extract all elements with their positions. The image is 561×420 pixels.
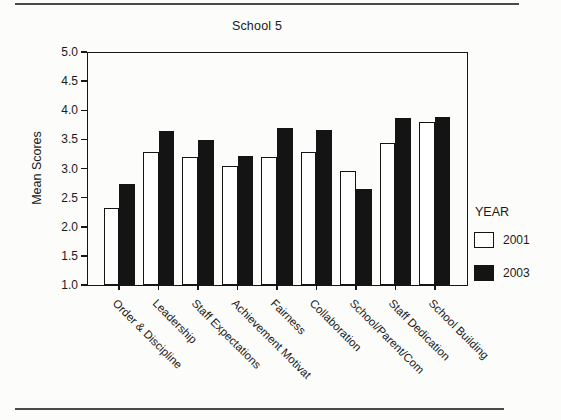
y-tick-label-4.5: 4.5	[51, 74, 78, 88]
legend-label-2003: 2003	[503, 266, 530, 280]
bar-2001-School/Parent/Com	[340, 171, 356, 285]
bar-2003-School Building	[435, 117, 451, 285]
top-rule	[15, 3, 519, 5]
x-tick-School Building	[434, 285, 436, 290]
bar-2001-Staff Dedication	[380, 143, 396, 285]
y-tick-label-3.0: 3.0	[51, 162, 78, 176]
y-tick-label-2.0: 2.0	[51, 220, 78, 234]
legend-item-2003: 2003	[474, 265, 530, 281]
legend-item-2001: 2001	[474, 232, 530, 248]
bar-2001-School Building	[419, 122, 435, 285]
y-axis-label: Mean Scores	[30, 131, 44, 205]
chart-title: School 5	[77, 19, 437, 33]
legend-swatch-2003	[474, 265, 494, 281]
y-tick-1.0	[81, 284, 87, 286]
y-tick-4.5	[81, 80, 87, 82]
legend-title: YEAR	[475, 205, 530, 219]
legend: YEAR 20012003	[474, 205, 530, 298]
x-tick-Fairness	[276, 285, 278, 290]
bar-2001-Staff Expectations	[182, 157, 198, 285]
x-label-Achievement Motivat: Achievement Motivat	[229, 297, 313, 381]
y-tick-4.0	[81, 110, 87, 112]
legend-items: 20012003	[474, 232, 530, 281]
y-tick-3.0	[81, 168, 87, 170]
figure-page: School 5 Mean Scores 5.04.54.03.53.02.52…	[0, 0, 561, 420]
x-label-Order & Discipline: Order & Discipline	[111, 297, 185, 371]
y-tick-label-1.5: 1.5	[51, 249, 78, 263]
bar-2003-Staff Expectations	[198, 140, 214, 285]
y-tick-label-1.0: 1.0	[51, 278, 78, 292]
bar-2001-Achievement Motivat	[222, 166, 238, 285]
legend-label-2001: 2001	[503, 233, 530, 247]
bar-2003-Leadership	[159, 131, 175, 285]
y-tick-label-2.5: 2.5	[51, 191, 78, 205]
y-tick-label-3.5: 3.5	[51, 132, 78, 146]
y-tick-label-5.0: 5.0	[51, 45, 78, 59]
y-tick-2.0	[81, 226, 87, 228]
bar-2001-Fairness	[261, 157, 277, 285]
y-tick-5.0	[81, 51, 87, 53]
y-tick-2.5	[81, 197, 87, 199]
x-label-Staff Expectations: Staff Expectations	[190, 297, 264, 371]
x-tick-Collaboration	[316, 285, 318, 290]
y-tick-1.5	[81, 255, 87, 257]
bar-2001-Collaboration	[301, 152, 317, 285]
x-tick-Staff Expectations	[197, 285, 199, 290]
x-label-Fairness: Fairness	[269, 297, 309, 337]
bar-2003-Collaboration	[316, 130, 332, 285]
x-tick-Order & Discipline	[118, 285, 120, 290]
x-label-School/Parent/Com: School/Parent/Com	[347, 297, 426, 376]
x-tick-Staff Dedication	[395, 285, 397, 290]
bar-2003-Staff Dedication	[395, 118, 411, 285]
bar-2001-Order & Discipline	[104, 208, 120, 285]
bar-2001-Leadership	[143, 152, 159, 285]
legend-swatch-2001	[474, 232, 494, 248]
y-tick-label-4.0: 4.0	[51, 103, 78, 117]
bottom-rule	[15, 408, 504, 410]
x-tick-School/Parent/Com	[355, 285, 357, 290]
bar-2003-Fairness	[277, 128, 293, 285]
bar-2003-School/Parent/Com	[356, 189, 372, 285]
x-tick-Achievement Motivat	[237, 285, 239, 290]
y-tick-3.5	[81, 139, 87, 141]
x-tick-Leadership	[158, 285, 160, 290]
bar-2003-Achievement Motivat	[238, 156, 254, 285]
bar-2003-Order & Discipline	[119, 184, 135, 285]
